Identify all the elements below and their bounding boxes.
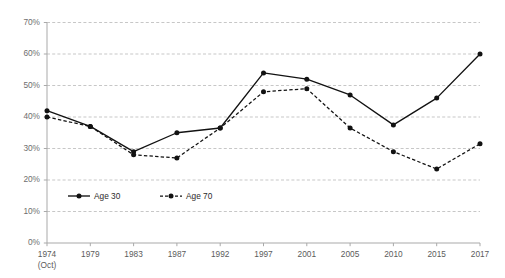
data-point-age-30-2015 <box>434 96 439 101</box>
x-axis-label-1979: 1979 <box>81 249 100 259</box>
line-chart: 0%10%20%30%40%50%60%70% 1974(Oct)1979198… <box>0 0 505 278</box>
chart-container: 0%10%20%30%40%50%60%70% 1974(Oct)1979198… <box>0 0 505 278</box>
legend-swatch-marker-age-70 <box>169 194 174 199</box>
data-point-age-70-2015 <box>434 166 439 171</box>
series-line-age-70 <box>47 89 480 169</box>
data-point-age-70-1983 <box>131 152 136 157</box>
x-axis-label-2010: 2010 <box>384 249 403 259</box>
y-axis-label-10: 10% <box>23 206 40 216</box>
data-point-age-30-1987 <box>174 130 179 135</box>
data-point-age-70-2010 <box>391 149 396 154</box>
data-point-age-70-1987 <box>174 155 179 160</box>
data-point-age-30-2001 <box>304 77 309 82</box>
data-point-age-70-1979 <box>88 124 93 129</box>
data-point-age-70-1992 <box>218 126 223 131</box>
data-point-age-70-1974 <box>45 115 50 120</box>
x-axis-label-1987: 1987 <box>168 249 187 259</box>
y-axis-label-0: 0% <box>28 237 41 247</box>
x-axis-label-2017: 2017 <box>471 249 490 259</box>
data-point-age-70-2001 <box>304 86 309 91</box>
x-axis-label-1983: 1983 <box>124 249 143 259</box>
gridlines <box>47 23 480 212</box>
data-point-age-70-2017 <box>478 141 483 146</box>
x-axis-tick-labels: 1974(Oct)1979198319871992199720012005201… <box>38 249 490 271</box>
data-point-age-70-1997 <box>261 89 266 94</box>
legend-swatch-marker-age-30 <box>77 194 82 199</box>
y-axis-label-50: 50% <box>23 80 40 90</box>
series-line-age-30 <box>47 54 480 152</box>
y-axis-label-20: 20% <box>23 174 40 184</box>
x-axis-label-1992: 1992 <box>211 249 230 259</box>
data-point-age-30-2010 <box>391 122 396 127</box>
y-axis <box>44 23 47 244</box>
y-axis-label-30: 30% <box>23 143 40 153</box>
x-axis-label-2015: 2015 <box>427 249 446 259</box>
data-series-group <box>45 52 483 172</box>
x-axis-label-2005: 2005 <box>341 249 360 259</box>
data-point-age-30-1974 <box>45 108 50 113</box>
x-axis-sublabel-1974: (Oct) <box>38 260 57 270</box>
y-axis-label-60: 60% <box>23 48 40 58</box>
data-point-age-30-1997 <box>261 70 266 75</box>
x-axis-label-1997: 1997 <box>254 249 273 259</box>
data-point-age-70-2005 <box>348 126 353 131</box>
chart-legend: Age 30Age 70 <box>68 191 213 201</box>
x-axis <box>47 243 480 246</box>
x-axis-label-1974: 1974 <box>38 249 57 259</box>
x-axis-label-2001: 2001 <box>298 249 317 259</box>
legend-label-age-30[interactable]: Age 30 <box>94 191 121 201</box>
data-point-age-30-2017 <box>478 52 483 57</box>
y-axis-label-40: 40% <box>23 111 40 121</box>
data-point-age-30-2005 <box>348 92 353 97</box>
legend-label-age-70[interactable]: Age 70 <box>186 191 213 201</box>
y-axis-label-70: 70% <box>23 17 40 27</box>
y-axis-tick-labels: 0%10%20%30%40%50%60%70% <box>23 17 40 248</box>
